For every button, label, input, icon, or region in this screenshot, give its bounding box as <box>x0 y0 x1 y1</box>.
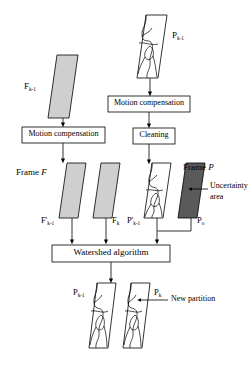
label-p-prime-k-minus-1: P'k-1 <box>127 216 140 225</box>
label-output-p-k-minus-1: Pk-1 <box>73 288 85 297</box>
label-motion-compensation-right: Motion compensation <box>108 99 190 107</box>
annotation-uncertainty-line1: Uncertainty <box>210 182 248 190</box>
label-f-prime-k-minus-1: F'k-1 <box>41 216 54 225</box>
plane-output-p-k-minus-1 <box>89 283 116 348</box>
label-motion-compensation-left: Motion compensation <box>22 130 105 138</box>
annotation-uncertainty-line2: area <box>210 193 223 201</box>
plane-f-prime-k-minus-1 <box>59 163 86 218</box>
plane-output-p-k <box>123 283 150 348</box>
plane-f-k <box>93 163 120 218</box>
label-f-k: Fk <box>112 216 119 225</box>
label-frame-p-group: Frame P <box>183 163 214 172</box>
annotation-new-partition: New partition <box>171 295 215 303</box>
plane-partition-k-minus-1 <box>137 15 167 78</box>
label-frame-k-minus-1: Fk-1 <box>24 82 36 91</box>
label-partition-k-minus-1: Pk-1 <box>172 31 184 40</box>
label-cleaning: Cleaning <box>133 131 175 139</box>
label-output-p-k: Pk <box>154 288 161 297</box>
plane-frame-k-minus-1 <box>48 55 78 118</box>
label-p-o: Po <box>197 216 204 225</box>
label-watershed-algorithm: Watershed algorithm <box>52 248 170 257</box>
plane-p-prime-k-minus-1 <box>144 163 171 218</box>
label-frame-f-group: Frame F <box>16 168 47 177</box>
figure-canvas: Fk-1 Pk-1 Motion compensation Motion com… <box>0 0 249 367</box>
